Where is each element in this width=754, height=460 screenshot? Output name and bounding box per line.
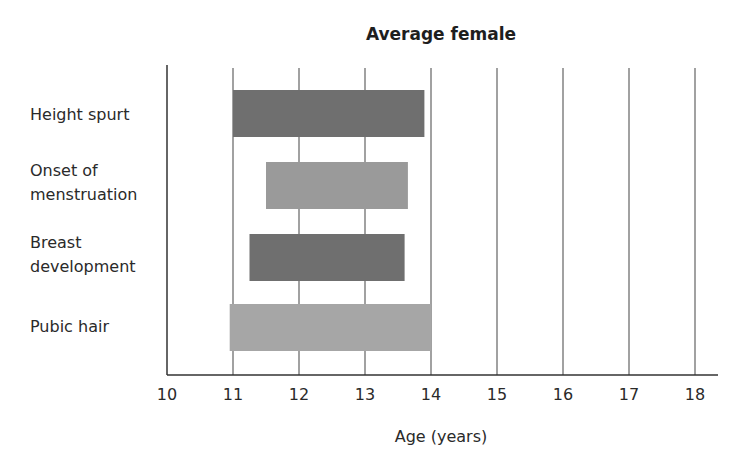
- x-tick-label: 12: [289, 385, 309, 404]
- category-label: Breast: [30, 233, 81, 252]
- x-tick-label: 16: [553, 385, 573, 404]
- chart-title: Average female: [366, 24, 516, 44]
- x-tick-label: 11: [223, 385, 243, 404]
- x-tick-label: 18: [685, 385, 705, 404]
- category-label: development: [30, 257, 136, 276]
- bar-onset-of-menstruation: [266, 162, 408, 209]
- chart: Average female Height spurtOnset ofmenst…: [0, 0, 754, 460]
- category-label: Onset of: [30, 161, 98, 180]
- category-label: menstruation: [30, 185, 137, 204]
- x-tick-label: 10: [157, 385, 177, 404]
- bar-breast-development: [250, 234, 405, 281]
- category-labels: Height spurtOnset ofmenstruationBreastde…: [30, 105, 137, 336]
- x-tick-label: 14: [421, 385, 441, 404]
- x-tick-labels: 101112131415161718: [157, 385, 705, 404]
- bars: [230, 90, 431, 351]
- bar-pubic-hair: [230, 304, 431, 351]
- x-axis-label: Age (years): [395, 427, 488, 446]
- bar-height-spurt: [233, 90, 424, 137]
- x-tick-label: 17: [619, 385, 639, 404]
- x-tick-label: 13: [355, 385, 375, 404]
- category-label: Pubic hair: [30, 317, 109, 336]
- x-tick-label: 15: [487, 385, 507, 404]
- category-label: Height spurt: [30, 105, 129, 124]
